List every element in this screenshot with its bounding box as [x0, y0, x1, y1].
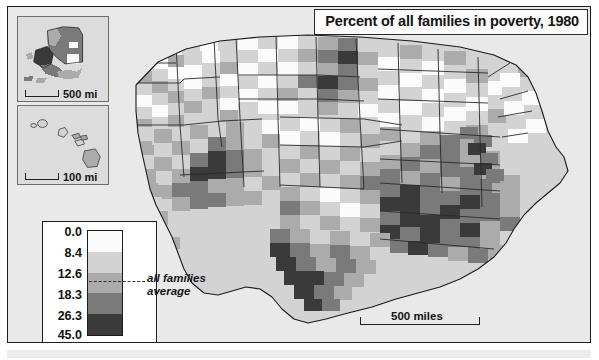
alaska-scale-line: [25, 90, 59, 97]
alaska-scale-bar: 500 mi: [25, 87, 97, 97]
alaska-scale-label: 500 mi: [63, 89, 97, 99]
hawaii-scale-line: [25, 173, 59, 180]
poverty-map-figure: Percent of all families in poverty, 1980: [0, 0, 599, 360]
legend-average-line1: all families: [147, 272, 206, 285]
legend-swatch-5: [88, 314, 122, 335]
legend-average-line2: average: [147, 285, 206, 298]
legend-average-dashed-line: [89, 281, 145, 282]
legend-label-2: 12.6: [58, 268, 82, 280]
legend-swatch-3: [88, 273, 122, 294]
legend-swatch-2: [88, 252, 122, 273]
legend-average-note: all families average: [147, 272, 206, 298]
main-scale-label: 500 miles: [391, 310, 443, 322]
hawaii-scale-bar: 100 mi: [25, 170, 97, 180]
inset-alaska: 500 mi: [17, 16, 109, 102]
legend-label-0: 0.0: [65, 226, 82, 238]
legend-label-4: 26.3: [58, 310, 82, 322]
bottom-band: [7, 350, 591, 358]
map-legend: 0.0 8.4 12.6 18.3 26.3 45.0 all families…: [42, 221, 157, 343]
legend-label-3: 18.3: [58, 289, 82, 301]
inset-hawaii: 100 mi: [17, 105, 109, 185]
legend-swatch-4: [88, 293, 122, 314]
hawaii-scale-label: 100 mi: [63, 172, 97, 182]
legend-label-1: 8.4: [65, 247, 82, 259]
legend-label-5: 45.0: [58, 329, 82, 341]
page-title: Percent of all families in poverty, 1980: [325, 13, 579, 30]
legend-swatch-1: [88, 231, 122, 252]
map-title-box: Percent of all families in poverty, 1980: [314, 9, 588, 35]
map-plate: Percent of all families in poverty, 1980: [7, 6, 591, 343]
legend-swatch-column: [87, 230, 123, 336]
